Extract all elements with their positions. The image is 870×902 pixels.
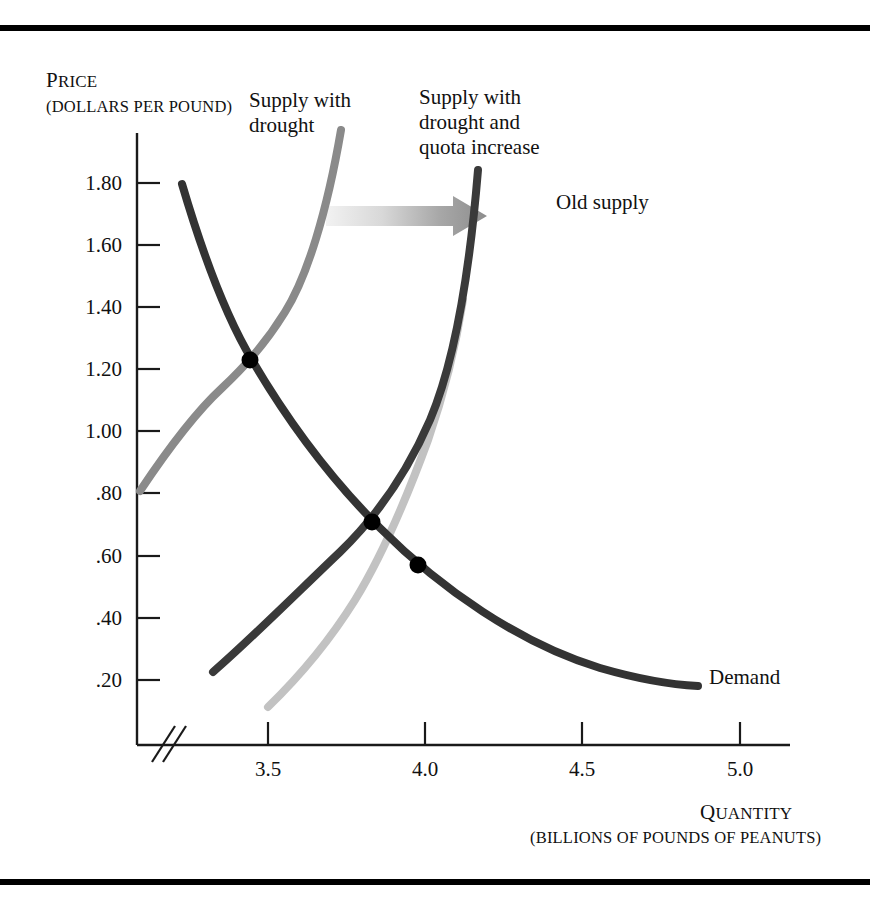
curve-old-supply — [268, 300, 463, 707]
x-axis-subtitle: (BILLIONS OF POUNDS OF PEANUTS) — [530, 828, 821, 848]
y-tick-label: 1.40 — [58, 295, 122, 320]
figure-canvas: PRICE (DOLLARS PER POUND) QUANTITY (BILL… — [0, 0, 870, 902]
y-tick-label: .60 — [58, 544, 122, 569]
equilibrium-dot-drought — [242, 352, 259, 369]
equilibrium-dot-original — [410, 557, 427, 574]
x-axis-title-rest: UANTITY — [715, 804, 792, 823]
y-axis-ticks — [137, 183, 160, 680]
curve-label-supply-drought-quota: Supply with drought and quota increase — [419, 85, 540, 160]
curve-supply-with-drought — [140, 130, 341, 491]
y-axis-title-rest: RICE — [58, 72, 98, 91]
y-tick-label: .80 — [58, 481, 122, 506]
x-axis-title: QUANTITY — [700, 800, 792, 825]
x-tick-label: 4.5 — [552, 757, 612, 782]
y-axis-title-initial: P — [46, 68, 58, 92]
curve-demand — [182, 184, 698, 686]
curve-label-old-supply: Old supply — [556, 190, 649, 215]
curve-label-supply-with-drought: Supply with drought — [249, 88, 351, 138]
y-tick-label: 1.80 — [58, 171, 122, 196]
y-axis-title: PRICE — [46, 68, 97, 93]
y-tick-label: .20 — [58, 668, 122, 693]
y-axis-subtitle: (DOLLARS PER POUND) — [46, 97, 232, 117]
y-tick-label: 1.60 — [58, 233, 122, 258]
curve-label-demand: Demand — [709, 665, 780, 690]
y-tick-label: 1.00 — [58, 419, 122, 444]
x-axis-title-initial: Q — [700, 800, 715, 824]
x-tick-label: 4.0 — [395, 757, 455, 782]
y-tick-label: 1.20 — [58, 357, 122, 382]
equilibrium-dot-drought-quota — [364, 514, 381, 531]
y-tick-label: .40 — [58, 606, 122, 631]
x-tick-label: 3.5 — [238, 757, 298, 782]
shift-arrow-icon — [326, 196, 487, 236]
x-axis-ticks — [268, 722, 740, 745]
x-tick-label: 5.0 — [710, 757, 770, 782]
